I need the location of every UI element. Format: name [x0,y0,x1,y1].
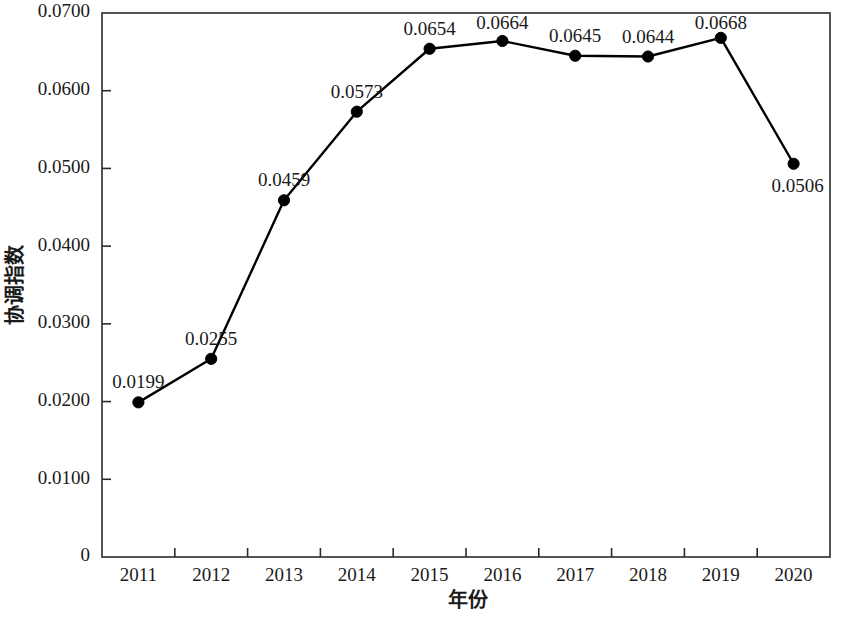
data-point-value-label: 0.0255 [185,328,237,349]
data-point-value-label: 0.0506 [771,175,823,196]
y-tick-label: 0.0700 [38,0,90,21]
data-point-value-label: 0.0645 [549,25,601,46]
data-point-marker [570,50,581,61]
data-point-value-label: 0.0654 [403,18,456,39]
y-tick-label: 0.0100 [38,467,90,488]
line-chart-figure: 00.01000.02000.03000.04000.05000.06000.0… [0,0,845,617]
data-point-marker [715,32,726,43]
y-tick-label: 0.0300 [38,311,90,332]
data-point-marker [133,397,144,408]
x-tick-label: 2013 [265,564,303,585]
x-tick-label: 2020 [775,564,813,585]
y-tick-label: 0.0400 [38,234,90,255]
x-tick-label: 2014 [338,564,377,585]
x-tick-label: 2018 [629,564,667,585]
data-point-value-label: 0.0459 [258,169,310,190]
x-tick-label: 2012 [192,564,230,585]
x-tick-label: 2011 [120,564,157,585]
x-axis-title: 年份 [448,588,489,611]
data-point-value-label: 0.0668 [695,12,747,33]
x-tick-label: 2017 [556,564,594,585]
y-axis-title: 协调指数 [3,244,26,325]
data-point-marker [206,353,217,364]
data-point-value-label: 0.0199 [112,371,164,392]
chart-canvas: 00.01000.02000.03000.04000.05000.06000.0… [0,0,845,617]
y-tick-label: 0.0600 [38,78,90,99]
data-point-marker [424,43,435,54]
chart-background [0,0,845,617]
data-point-marker [788,158,799,169]
data-point-marker [351,106,362,117]
data-point-value-label: 0.0664 [476,12,529,33]
x-tick-label: 2015 [411,564,449,585]
data-point-value-label: 0.0573 [331,81,383,102]
data-point-marker [497,35,508,46]
x-tick-label: 2019 [702,564,740,585]
y-tick-label: 0.0200 [38,389,90,410]
data-point-marker [642,51,653,62]
y-tick-label: 0.0500 [38,156,90,177]
x-tick-label: 2016 [483,564,521,585]
data-point-marker [278,195,289,206]
y-tick-label: 0 [81,544,91,565]
data-point-value-label: 0.0644 [622,26,675,47]
